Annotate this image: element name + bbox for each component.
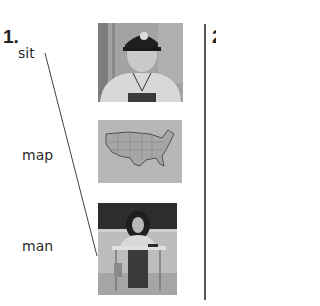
girl-sitting-at-desk-photo[interactable]	[98, 203, 177, 295]
column-divider	[204, 24, 206, 300]
us-map-image[interactable]	[98, 120, 182, 183]
man-in-cap-photo[interactable]	[98, 23, 183, 102]
next-exercise-number: 2	[212, 26, 216, 48]
